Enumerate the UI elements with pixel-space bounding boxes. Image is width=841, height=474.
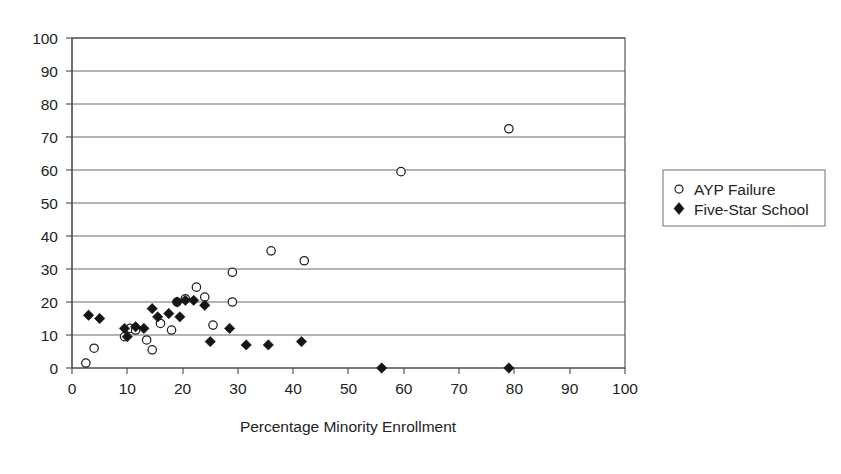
scatter-chart-figure: 0102030405060708090100 01020304050607080… <box>0 0 841 474</box>
data-point-open-circle <box>142 336 150 344</box>
y-tick-label-90: 90 <box>41 63 59 80</box>
data-point-open-circle <box>228 298 236 306</box>
x-axis-tick-labels: 0102030405060708090100 <box>68 380 639 397</box>
legend-label-ayp-failure: AYP Failure <box>694 181 775 198</box>
y-tick-label-20: 20 <box>41 294 59 311</box>
x-tick-label-20: 20 <box>174 380 192 397</box>
data-point-open-circle <box>209 321 217 329</box>
x-tick-label-100: 100 <box>612 380 638 397</box>
data-point-open-circle <box>167 326 175 334</box>
chart-canvas: 0102030405060708090100 01020304050607080… <box>0 0 841 474</box>
data-point-open-circle <box>397 167 405 175</box>
x-tick-label-40: 40 <box>285 380 303 397</box>
x-tick-label-0: 0 <box>68 380 77 397</box>
y-tick-label-10: 10 <box>41 327 59 344</box>
x-tick-label-80: 80 <box>506 380 524 397</box>
data-point-open-circle <box>90 344 98 352</box>
y-tick-label-50: 50 <box>41 195 59 212</box>
data-point-open-circle <box>228 268 236 276</box>
legend-label-five-star-school: Five-Star School <box>694 201 809 218</box>
x-axis-tickmarks <box>72 368 625 374</box>
y-axis-tickmarks <box>66 38 72 368</box>
x-tick-label-60: 60 <box>395 380 413 397</box>
x-tick-label-10: 10 <box>119 380 137 397</box>
y-axis-tick-labels: 0102030405060708090100 <box>32 30 58 377</box>
x-axis-title: Percentage Minority Enrollment <box>240 418 457 435</box>
y-tick-label-40: 40 <box>41 228 59 245</box>
y-tick-label-100: 100 <box>32 30 58 47</box>
y-tick-label-70: 70 <box>41 129 59 146</box>
x-tick-label-50: 50 <box>340 380 358 397</box>
data-point-open-circle <box>267 247 275 255</box>
x-tick-label-70: 70 <box>450 380 468 397</box>
x-tick-label-90: 90 <box>561 380 579 397</box>
y-tick-label-60: 60 <box>41 162 59 179</box>
data-point-open-circle <box>192 283 200 291</box>
data-point-open-circle <box>505 125 513 133</box>
data-point-open-circle <box>82 359 90 367</box>
y-tick-label-30: 30 <box>41 261 59 278</box>
y-tick-label-0: 0 <box>49 360 58 377</box>
legend-marker-open-circle-icon <box>675 185 683 193</box>
data-point-open-circle <box>148 346 156 354</box>
x-tick-label-30: 30 <box>229 380 247 397</box>
y-tick-label-80: 80 <box>41 96 59 113</box>
legend: AYP Failure Five-Star School <box>663 170 825 226</box>
data-point-open-circle <box>300 257 308 265</box>
